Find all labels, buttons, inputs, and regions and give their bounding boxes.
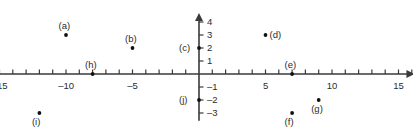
point-label-j: (j)	[179, 95, 187, 105]
point-label-f: (f)	[285, 117, 294, 127]
point-label-b: (b)	[125, 34, 137, 44]
point-dot-a	[64, 33, 68, 37]
y-tick-label-2: 2	[207, 43, 212, 53]
point-dot-f	[290, 111, 294, 115]
point-dot-j	[197, 98, 201, 102]
x-tick-label--15: –15	[0, 81, 8, 91]
y-axis	[195, 13, 203, 121]
point-label-e: (e)	[285, 60, 297, 70]
point-label-a: (a)	[59, 21, 71, 31]
coordinate-plane-figure: –15–10–5510154321–1–2–3(a)(b)(c)(d)(e)(f…	[0, 0, 413, 137]
point-dot-d	[264, 33, 268, 37]
point-dot-g	[317, 98, 321, 102]
point-dot-e	[290, 72, 294, 76]
x-tick-label-5: 5	[263, 81, 268, 91]
point-label-d: (d)	[270, 30, 282, 40]
x-tick-label--10: –10	[58, 81, 74, 91]
point-label-c: (c)	[179, 43, 190, 53]
x-axis	[0, 70, 413, 78]
y-tick-label-1: 1	[207, 56, 212, 66]
y-tick-label-3: 3	[207, 30, 212, 40]
y-tick-label--1: –1	[207, 82, 218, 92]
x-tick-label-10: 10	[327, 81, 338, 91]
y-axis-arrow-icon	[195, 13, 203, 21]
point-dot-c	[197, 46, 201, 50]
point-dot-b	[131, 46, 135, 50]
y-tick-label--3: –3	[207, 108, 218, 118]
point-label-g: (g)	[311, 104, 323, 114]
y-tick-label--2: –2	[207, 95, 218, 105]
x-tick-label--5: –5	[127, 81, 138, 91]
point-label-i: (i)	[32, 117, 40, 127]
y-tick-label-4: 4	[207, 17, 212, 27]
x-tick-label-15: 15	[393, 81, 404, 91]
point-dot-h	[91, 72, 95, 76]
point-label-h: (h)	[85, 60, 97, 70]
point-dot-i	[38, 111, 42, 115]
